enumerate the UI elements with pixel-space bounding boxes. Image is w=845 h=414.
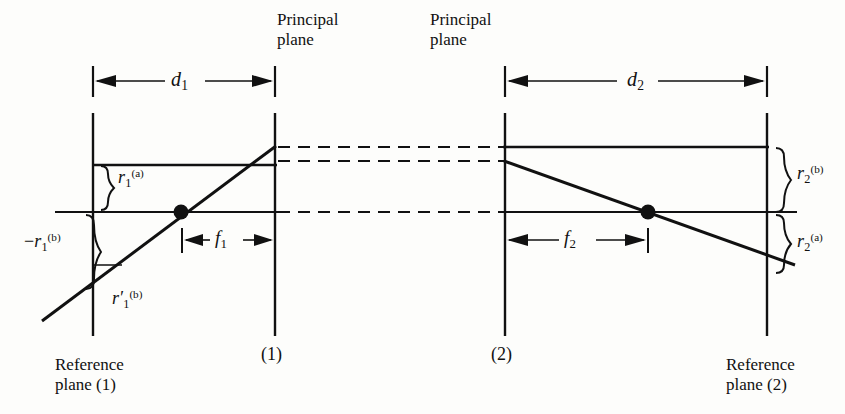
dimension-label-d1: d1 (171, 68, 188, 94)
r2a-superscript: (a) (810, 231, 822, 243)
r1b-superscript: (b) (48, 231, 61, 243)
principal-plane-2-label-line1: Principal (430, 10, 491, 30)
dimension-label-f1: f1 (215, 227, 227, 252)
f2-subscript: 2 (569, 236, 576, 251)
principal-plane-2-label-line2: plane (430, 30, 491, 50)
dimension-arrow-f2 (507, 228, 648, 253)
d1-symbol: d (171, 68, 181, 90)
principal-plane-1-label: Principal plane (277, 10, 338, 49)
principal-plane-2-label: Principal plane (430, 10, 491, 49)
right-angle-marker-icon (93, 265, 122, 287)
reference-plane-2-label-line2: plane (2) (726, 375, 795, 395)
d2-subscript: 2 (637, 78, 644, 93)
ray-height-label-r1b-prime: r′1(b) (112, 288, 142, 312)
focal-point-dot-2 (641, 205, 656, 220)
r1b-prime-superscript: (b) (129, 288, 142, 300)
ray-height-label-r2b: r2(b) (797, 163, 823, 187)
diagram-canvas (0, 0, 845, 414)
brace-r2b (776, 148, 791, 212)
f1-subscript: 1 (220, 236, 227, 251)
principal-plane-1-label-line1: Principal (277, 10, 338, 30)
reference-plane-1-label-line1: Reference (55, 355, 124, 375)
r1b-prefix: − (24, 231, 34, 251)
ray-b-input-slanted (42, 146, 276, 321)
r2a-symbol: r (797, 231, 804, 251)
brace-r1a (101, 166, 114, 210)
focal-point-dot-1 (174, 205, 189, 220)
reference-plane-1-label: Reference plane (1) (55, 355, 124, 394)
reference-plane-2-label: Reference plane (2) (726, 355, 795, 394)
ray-height-label-r1b: −r1(b) (24, 231, 61, 255)
ray-height-label-r1a: r1(a) (118, 167, 144, 191)
reference-plane-1-label-line2: plane (1) (55, 375, 124, 395)
r1a-superscript: (a) (131, 167, 143, 179)
ray-height-label-r2a: r2(a) (797, 231, 823, 255)
principal-plane-1-label-line2: plane (277, 30, 338, 50)
d1-subscript: 1 (181, 78, 188, 93)
r1b-prime-symbol: r (112, 288, 119, 308)
dimension-label-d2: d2 (627, 68, 644, 94)
optical-ray-diagram-figure: Principal plane Principal plane d1 d2 f1… (0, 0, 845, 414)
node-label-2: (2) (491, 344, 512, 364)
d2-symbol: d (627, 68, 637, 90)
dimension-label-f2: f2 (564, 227, 576, 252)
r2b-symbol: r (797, 163, 804, 183)
r2b-superscript: (b) (810, 163, 823, 175)
r1a-symbol: r (118, 167, 125, 187)
reference-plane-2-label-line1: Reference (726, 355, 795, 375)
dimension-arrow-f1 (182, 228, 273, 253)
node-label-1: (1) (261, 344, 282, 364)
